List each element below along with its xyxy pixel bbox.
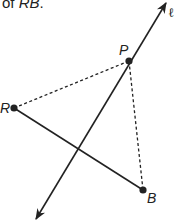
point-p <box>125 57 132 64</box>
geometry-diagram: P R B ℓ <box>0 0 180 224</box>
line-l <box>36 3 166 219</box>
segment-rp-dashed <box>14 61 129 108</box>
segment-pb-dashed <box>129 61 143 190</box>
label-r: R <box>0 100 10 116</box>
point-b <box>139 186 146 193</box>
label-p: P <box>119 42 129 58</box>
point-r <box>10 104 17 111</box>
label-line-l: ℓ <box>168 5 174 20</box>
segment-rb <box>14 108 143 190</box>
label-b: B <box>147 190 156 206</box>
